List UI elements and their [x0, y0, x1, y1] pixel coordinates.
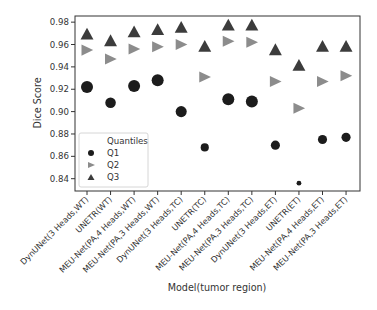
point-q2 [223, 36, 235, 47]
point-q2 [129, 43, 141, 54]
legend: Quantiles Q1 Q2 Q3 [79, 133, 148, 187]
point-q2 [293, 103, 305, 114]
point-q1 [81, 81, 93, 93]
chart-svg: 0.840.860.880.900.920.940.960.98 DynUNet… [0, 0, 377, 310]
y-tick-label: 0.96 [50, 40, 69, 50]
point-q3 [269, 43, 282, 55]
point-q1 [341, 133, 350, 142]
point-q3 [81, 28, 94, 40]
y-tick-label: 0.94 [50, 62, 69, 72]
point-q1 [105, 97, 116, 108]
point-q1 [246, 96, 258, 108]
point-q3 [198, 40, 211, 52]
point-q3 [245, 19, 258, 31]
legend-marker-q1 [88, 150, 94, 156]
point-q3 [104, 34, 117, 46]
point-q1 [297, 181, 302, 186]
point-q2 [341, 70, 353, 81]
point-q2 [152, 41, 164, 52]
point-q3 [175, 21, 188, 33]
y-tick-label: 0.92 [50, 84, 69, 94]
x-axis: DynUNet(3 Heads,WT)UNETR(WT)MEU-Net(PA,4… [18, 191, 349, 275]
y-axis: 0.840.860.880.900.920.940.960.98 [50, 17, 75, 184]
point-q1 [201, 143, 209, 151]
point-q1 [271, 141, 280, 150]
point-q2 [246, 37, 258, 48]
point-q3 [316, 40, 329, 52]
point-q2 [81, 45, 93, 56]
point-q2 [270, 76, 282, 87]
point-q1 [176, 106, 187, 117]
y-tick-label: 0.90 [50, 107, 69, 117]
point-q2 [199, 71, 211, 82]
legend-label-q3: Q3 [107, 172, 119, 182]
point-q3 [151, 23, 164, 35]
point-q3 [340, 40, 353, 52]
point-q2 [317, 76, 329, 87]
y-tick-label: 0.88 [50, 129, 69, 139]
legend-title: Quantiles [107, 136, 148, 146]
y-axis-label: Dice Score [32, 77, 43, 128]
legend-label-q2: Q2 [107, 160, 119, 170]
point-q3 [128, 25, 141, 37]
point-q2 [105, 54, 117, 65]
y-tick-label: 0.98 [50, 17, 69, 27]
chart: 0.840.860.880.900.920.940.960.98 DynUNet… [0, 0, 377, 310]
x-axis-label: Model(tumor region) [168, 282, 267, 293]
point-q1 [152, 74, 164, 86]
point-q2 [176, 39, 188, 50]
point-q1 [128, 80, 140, 92]
legend-label-q1: Q1 [107, 148, 119, 158]
point-q1 [318, 135, 327, 144]
point-q1 [222, 93, 234, 105]
y-tick-label: 0.86 [50, 151, 69, 161]
point-q3 [292, 59, 305, 71]
point-q3 [222, 19, 235, 31]
y-tick-label: 0.84 [50, 174, 69, 184]
